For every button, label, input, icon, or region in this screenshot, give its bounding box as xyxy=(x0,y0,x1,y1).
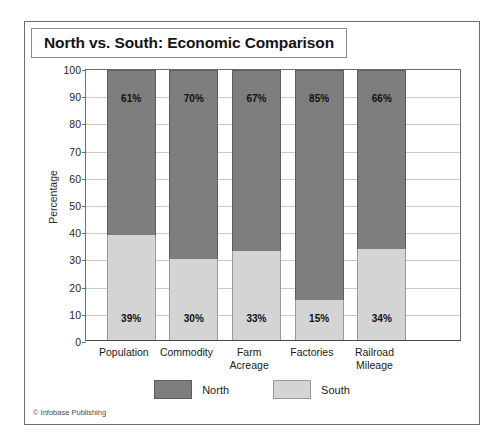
y-tick-mark xyxy=(82,260,86,261)
y-tick-label: 50 xyxy=(69,200,81,212)
x-category-label: RailroadMileage xyxy=(343,346,406,371)
legend-swatch-icon xyxy=(273,380,311,399)
bar-segment-north[interactable]: 61% xyxy=(107,70,156,235)
bar-segment-south[interactable]: 33% xyxy=(232,251,281,340)
bar-segment-north[interactable]: 70% xyxy=(169,70,218,259)
x-category-label-line: Factories xyxy=(281,346,344,359)
y-tick-mark xyxy=(82,97,86,98)
bar-group[interactable]: 67%33% xyxy=(232,70,281,340)
y-tick-label: 80 xyxy=(69,118,81,130)
bar-segment-north[interactable]: 85% xyxy=(295,70,344,300)
y-tick-label: 40 xyxy=(69,227,81,239)
stacked-bar[interactable]: 70%30% xyxy=(169,70,218,340)
bar-data-label: 39% xyxy=(121,313,141,324)
bar-data-label: 61% xyxy=(121,93,141,104)
bar-data-label: 85% xyxy=(309,93,329,104)
bar-segment-south[interactable]: 39% xyxy=(107,235,156,340)
y-tick-label: 10 xyxy=(69,309,81,321)
legend-label: South xyxy=(321,384,350,396)
y-tick-label: 70 xyxy=(69,146,81,158)
y-axis-title: Percentage xyxy=(47,170,59,224)
x-category-label-line: Population xyxy=(93,346,156,359)
x-category-label: Factories xyxy=(281,346,344,359)
y-tick-mark xyxy=(82,152,86,153)
y-tick-mark xyxy=(82,70,86,71)
x-category-label: Population xyxy=(93,346,156,359)
y-tick-label: 90 xyxy=(69,91,81,103)
legend-item[interactable]: North xyxy=(154,380,229,399)
y-tick-mark xyxy=(82,206,86,207)
y-tick-mark xyxy=(82,124,86,125)
x-category-label-line: Railroad xyxy=(343,346,406,359)
copyright-credit: © Infobase Publishing xyxy=(33,408,106,417)
stacked-bar[interactable]: 66%34% xyxy=(357,70,406,340)
y-tick-mark xyxy=(82,233,86,234)
chart-title: North vs. South: Economic Comparison xyxy=(44,34,334,52)
chart-figure-frame: North vs. South: Economic Comparison Per… xyxy=(24,21,480,425)
bar-data-label: 33% xyxy=(246,313,266,324)
y-tick-mark xyxy=(82,315,86,316)
legend-label: North xyxy=(202,384,229,396)
bar-segment-south[interactable]: 34% xyxy=(357,249,406,340)
y-tick-mark xyxy=(82,179,86,180)
x-category-label: Commodity xyxy=(155,346,218,359)
y-tick-label: 60 xyxy=(69,173,81,185)
bar-data-label: 15% xyxy=(309,313,329,324)
bar-group[interactable]: 61%39% xyxy=(107,70,156,340)
bar-segment-south[interactable]: 15% xyxy=(295,300,344,340)
y-tick-label: 30 xyxy=(69,254,81,266)
x-category-label: Farm Acreage xyxy=(218,346,281,371)
stacked-bar[interactable]: 61%39% xyxy=(107,70,156,340)
legend-swatch-icon xyxy=(154,380,192,399)
stacked-bar[interactable]: 85%15% xyxy=(295,70,344,340)
y-tick-label: 100 xyxy=(63,64,81,76)
bar-group[interactable]: 85%15% xyxy=(295,70,344,340)
y-tick-mark xyxy=(82,288,86,289)
legend-item[interactable]: South xyxy=(273,380,350,399)
y-tick-label: 20 xyxy=(69,282,81,294)
bar-group[interactable]: 70%30% xyxy=(169,70,218,340)
chart-title-box: North vs. South: Economic Comparison xyxy=(31,28,347,58)
bar-segment-north[interactable]: 66% xyxy=(357,70,406,249)
bar-segment-south[interactable]: 30% xyxy=(169,259,218,340)
chart-legend: NorthSouth xyxy=(25,380,479,399)
stacked-bar[interactable]: 67%33% xyxy=(232,70,281,340)
bar-data-label: 66% xyxy=(372,93,392,104)
x-category-label-line: Commodity xyxy=(155,346,218,359)
y-tick-label: 0 xyxy=(75,336,81,348)
bar-group[interactable]: 66%34% xyxy=(357,70,406,340)
x-category-label-line: Mileage xyxy=(343,359,406,372)
bar-data-label: 30% xyxy=(184,313,204,324)
bar-data-label: 70% xyxy=(184,93,204,104)
bar-data-label: 34% xyxy=(372,313,392,324)
y-tick-mark xyxy=(82,342,86,343)
plot-area: 0102030405060708090100 61%39%70%30%67%33… xyxy=(85,69,461,341)
bar-segment-north[interactable]: 67% xyxy=(232,70,281,251)
bar-data-label: 67% xyxy=(246,93,266,104)
x-category-label-line: Farm Acreage xyxy=(218,346,281,371)
